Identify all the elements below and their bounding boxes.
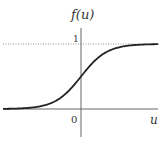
sigmoid-curve [3, 44, 158, 109]
x-axis-label: u [150, 113, 158, 127]
x-tick-label-0: 0 [71, 114, 77, 125]
y-axis-label: f(u) [70, 7, 94, 22]
y-tick-label-1: 1 [73, 34, 79, 44]
sigmoid-chart: f(u) 1 0 u [0, 0, 162, 146]
